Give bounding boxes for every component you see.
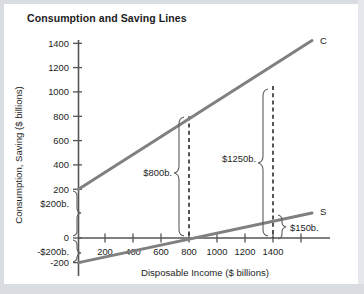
x-tick-label-1400: 1400	[263, 246, 284, 257]
annotation-1250b: $1250b.	[222, 153, 256, 164]
chart-plot: 1400 1200 1000 800 600 400 200 0 -200 20…	[0, 0, 364, 294]
y-tick-label-1000: 1000	[48, 86, 69, 97]
brace-800	[174, 117, 184, 236]
y-axis-title: Consumption, Saving ($ billions)	[13, 86, 24, 224]
y-tick-label-1200: 1200	[48, 62, 69, 73]
consumption-line	[79, 41, 313, 190]
annotation-150b: $150b.	[290, 222, 319, 233]
y-tick-label-600: 600	[53, 135, 69, 146]
figure-panel: Consumption and Saving Lines	[0, 0, 364, 294]
annotation-dissaving-neg200b: -$200b.	[37, 246, 69, 257]
y-tick-label-1400: 1400	[48, 38, 69, 49]
y-tick-label-200: 200	[53, 184, 69, 195]
y-tick-label-0: 0	[64, 232, 69, 243]
x-tick-label-800: 800	[181, 246, 197, 257]
y-tick-label-neg200: -200	[50, 257, 69, 268]
x-axis-title: Disposable Income ($ billions)	[141, 267, 269, 278]
brace-200b	[73, 191, 81, 236]
x-tick-label-1000: 1000	[207, 246, 228, 257]
brace-neg200b	[73, 240, 81, 262]
saving-line-label: S	[320, 206, 326, 217]
x-tick-label-1200: 1200	[235, 246, 256, 257]
y-tick-label-400: 400	[53, 159, 69, 170]
brace-1250	[258, 89, 268, 236]
consumption-line-label: C	[320, 35, 327, 46]
annotation-autonomous-200b: $200b.	[40, 198, 69, 209]
y-tick-label-800: 800	[53, 111, 69, 122]
annotation-800b: $800b.	[143, 167, 172, 178]
